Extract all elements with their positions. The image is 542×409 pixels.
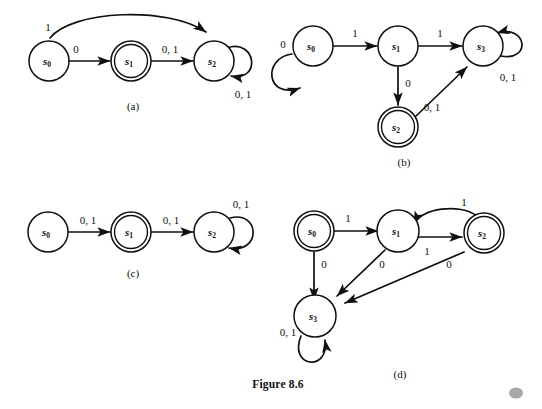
node-b-s0[interactable]: s0 [293, 26, 333, 66]
edge-label-d-s2-s1: 1 [461, 196, 467, 208]
edge-label-a-s0-s2: 1 [45, 21, 51, 33]
figure-caption: Figure 8.6 [252, 378, 304, 391]
figure-canvas: 1 0 0, 1 0, 1 s0 s1 s2 [0, 0, 542, 409]
node-d-s1-sub: 1 [396, 230, 400, 239]
edge-label-a-s2-self: 0, 1 [235, 88, 252, 100]
edge-label-d-s1-s3: 0 [379, 258, 385, 270]
edge-label-b-s1-s3: 1 [437, 27, 443, 39]
node-a-s1-sub: 1 [129, 60, 133, 69]
panel-label-a: (a) [127, 100, 140, 113]
node-b-s0-sub: 0 [311, 45, 315, 54]
edge-d-s3-self [298, 336, 325, 362]
edge-label-a-s1-s2: 0, 1 [162, 43, 179, 55]
edge-label-c-s0-s1: 0, 1 [80, 214, 97, 226]
node-c-s0[interactable]: s0 [28, 212, 68, 252]
node-d-s2[interactable]: s2 [464, 213, 504, 253]
node-d-s2-sub: 2 [482, 232, 486, 241]
panel-c: 0, 1 0, 1 0, 1 s0 s1 s2 [28, 198, 253, 280]
node-c-s2-sub: 2 [212, 231, 216, 240]
edge-b-s0-self [272, 54, 300, 90]
edge-label-a-s0-s1: 0 [73, 43, 79, 55]
page-corner-dot [509, 388, 523, 399]
node-b-s1-sub: 1 [396, 45, 400, 54]
edge-a-s0-s2 [50, 15, 206, 38]
node-b-s2-sub: 2 [396, 126, 400, 135]
node-a-s0-sub: 0 [47, 60, 51, 69]
panel-label-c: (c) [127, 267, 140, 280]
node-b-s1[interactable]: s1 [378, 26, 418, 66]
node-c-s2[interactable]: s2 [194, 212, 234, 252]
node-c-s1-sub: 1 [129, 231, 133, 240]
panel-d: 1 0 1 0 1 0 0, 1 s0 s1 [280, 196, 504, 381]
edge-label-d-s2-s3: 0 [446, 258, 452, 270]
edge-label-d-s3-self: 0, 1 [280, 326, 297, 338]
node-a-s1[interactable]: s1 [111, 41, 151, 81]
panel-label-b: (b) [398, 156, 411, 169]
edge-label-b-s3-self: 0, 1 [500, 71, 517, 83]
edge-label-d-s1-s2: 1 [424, 245, 430, 257]
edge-label-b-s2-s3: 0, 1 [424, 101, 441, 113]
node-b-s2[interactable]: s2 [378, 107, 418, 147]
node-b-s3[interactable]: s3 [463, 26, 503, 66]
edge-label-b-s0-self: 0 [280, 38, 286, 50]
panel-label-d: (d) [394, 368, 407, 381]
node-d-s0[interactable]: s0 [294, 211, 334, 251]
node-a-s0[interactable]: s0 [29, 41, 69, 81]
edge-label-b-s1-s2: 0 [405, 77, 411, 89]
edge-label-d-s0-s3: 0 [321, 258, 327, 270]
node-b-s3-sub: 3 [481, 45, 485, 54]
panel-a: 1 0 0, 1 0, 1 s0 s1 s2 [29, 15, 252, 113]
edge-label-c-s2-self: 0, 1 [233, 198, 250, 210]
node-d-s3-sub: 3 [313, 315, 317, 324]
node-c-s0-sub: 0 [46, 231, 50, 240]
node-a-s2[interactable]: s2 [194, 41, 234, 81]
panel-b: 0 1 1 0 0, 1 0, 1 s0 s1 [272, 26, 522, 169]
node-d-s0-sub: 0 [312, 230, 316, 239]
node-d-s3[interactable]: s3 [294, 295, 336, 337]
edge-label-b-s0-s1: 1 [352, 27, 358, 39]
edge-label-d-s0-s1: 1 [345, 212, 351, 224]
edge-label-c-s1-s2: 0, 1 [163, 214, 180, 226]
node-a-s2-sub: 2 [212, 60, 216, 69]
node-d-s1[interactable]: s1 [377, 210, 419, 252]
node-c-s1[interactable]: s1 [111, 212, 151, 252]
